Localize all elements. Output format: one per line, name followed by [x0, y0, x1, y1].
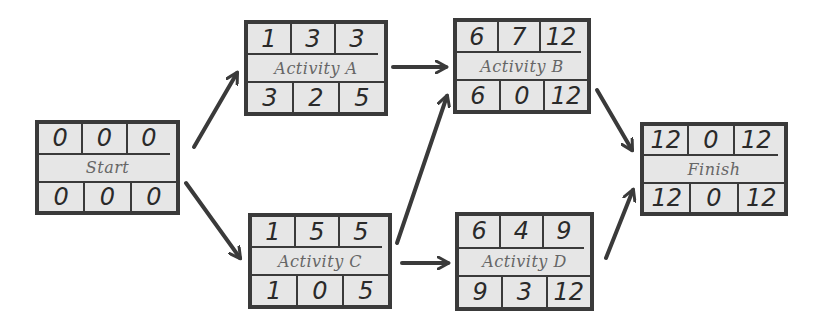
arrow-start-to-a: [194, 73, 237, 147]
node-top-row: 6 7 12: [457, 22, 581, 53]
node-top-row: 1 3 3: [248, 24, 378, 55]
early-start: 1: [248, 24, 290, 53]
late-finish: 12: [546, 277, 590, 308]
node-label: Finish: [644, 156, 784, 182]
late-start: 0: [39, 183, 83, 212]
late-start: 12: [644, 184, 689, 212]
node-bottom-row: 1 0 5: [252, 274, 388, 305]
node-activity-b: 6 7 12 Activity B 6 0 12: [453, 18, 591, 114]
early-finish: 5: [338, 217, 382, 246]
float: 0: [499, 81, 543, 110]
early-start: 12: [644, 126, 687, 154]
late-start: 1: [252, 276, 296, 305]
node-top-row: 6 4 9: [459, 216, 584, 249]
duration: 5: [294, 217, 338, 246]
duration: 4: [499, 216, 541, 247]
node-activity-a: 1 3 3 Activity A 3 2 5: [244, 20, 388, 116]
late-finish: 0: [130, 183, 176, 212]
float: 0: [296, 276, 342, 305]
early-finish: 0: [126, 124, 170, 153]
early-start: 6: [459, 216, 499, 247]
node-bottom-row: 0 0 0: [39, 181, 176, 212]
late-finish: 12: [543, 81, 587, 110]
node-label: Activity B: [457, 53, 587, 79]
duration: 7: [497, 22, 539, 51]
node-top-row: 1 5 5: [252, 217, 382, 248]
node-label: Activity A: [248, 55, 384, 81]
early-start: 6: [457, 22, 497, 51]
early-finish: 9: [542, 216, 584, 247]
early-start: 0: [39, 124, 81, 153]
late-finish: 5: [342, 276, 388, 305]
late-start: 6: [457, 81, 499, 110]
float: 0: [83, 183, 129, 212]
node-activity-c: 1 5 5 Activity C 1 0 5: [248, 213, 392, 309]
node-bottom-row: 6 0 12: [457, 79, 587, 110]
early-finish: 3: [334, 24, 378, 53]
late-start: 9: [459, 277, 501, 308]
node-activity-d: 6 4 9 Activity D 9 3 12: [455, 212, 594, 311]
node-bottom-row: 3 2 5: [248, 81, 384, 112]
arrow-c-to-b: [397, 96, 447, 243]
duration: 3: [290, 24, 334, 53]
node-finish: 12 0 12 Finish 12 0 12: [640, 122, 788, 216]
late-finish: 5: [338, 83, 384, 112]
late-finish: 12: [737, 184, 784, 212]
node-bottom-row: 9 3 12: [459, 275, 590, 308]
arrow-b-to-finish: [597, 90, 632, 150]
float: 2: [292, 83, 338, 112]
duration: 0: [81, 124, 125, 153]
early-start: 1: [252, 217, 294, 246]
arrow-d-to-finish: [606, 190, 633, 258]
float: 0: [689, 184, 736, 212]
node-start: 0 0 0 Start 0 0 0: [35, 120, 180, 215]
early-finish: 12: [539, 22, 581, 51]
arrow-start-to-c: [186, 183, 240, 258]
node-label: Activity C: [252, 248, 388, 274]
node-top-row: 12 0 12: [644, 126, 778, 156]
early-finish: 12: [733, 126, 778, 154]
node-bottom-row: 12 0 12: [644, 182, 784, 212]
duration: 0: [687, 126, 732, 154]
node-label: Start: [39, 155, 176, 181]
node-top-row: 0 0 0: [39, 124, 170, 155]
node-label: Activity D: [459, 249, 590, 275]
late-start: 3: [248, 83, 292, 112]
float: 3: [501, 277, 545, 308]
